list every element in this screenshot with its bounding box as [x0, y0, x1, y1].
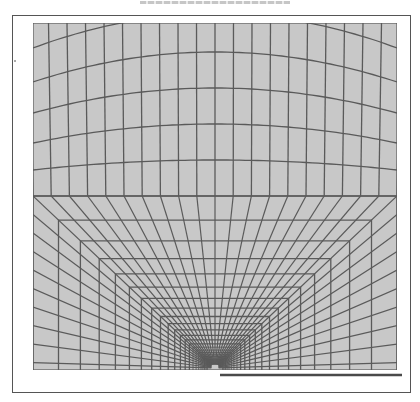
mesh-column-line	[397, 23, 400, 196]
mesh-column-line	[270, 23, 271, 196]
mesh-figure	[0, 0, 420, 402]
mesh-column-line	[178, 23, 179, 196]
mesh-column-line	[30, 23, 33, 196]
mesh-column-line	[160, 23, 161, 196]
mesh-column-line	[251, 23, 252, 196]
